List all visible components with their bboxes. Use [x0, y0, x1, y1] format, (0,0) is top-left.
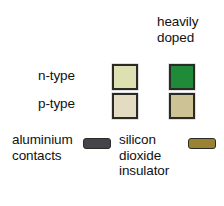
aluminium-contacts-label: aluminium contacts	[12, 132, 73, 163]
silicon-dioxide-insulator-label: silicon dioxide insulator	[119, 132, 169, 179]
row-label-p-type: p-type	[38, 96, 75, 112]
p-type-swatch	[112, 93, 138, 119]
heavily-doped-column-header: heavily doped	[157, 14, 198, 45]
aluminium-contacts-swatch	[83, 138, 111, 149]
materials-key-legend: heavily doped n-type p-type aluminium co…	[0, 0, 224, 206]
silicon-dioxide-insulator-swatch	[188, 138, 216, 149]
n-type-swatch	[112, 64, 138, 90]
row-label-n-type: n-type	[38, 68, 75, 84]
n-type-heavily-doped-swatch	[169, 64, 195, 90]
p-type-heavily-doped-swatch	[169, 93, 195, 119]
